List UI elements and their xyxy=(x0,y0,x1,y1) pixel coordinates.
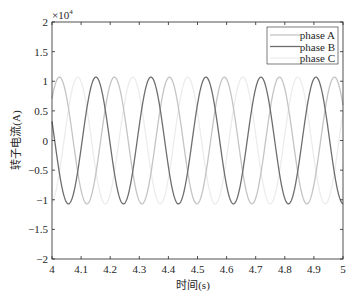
y-tick-label: 1 xyxy=(43,75,49,87)
x-tick-label: 4.7 xyxy=(249,263,263,275)
y-tick-label: −1 xyxy=(36,194,48,206)
x-axis-label: 时间(s) xyxy=(176,279,210,292)
x-tick-label: 4.6 xyxy=(220,263,234,275)
y-tick-label: 2 xyxy=(43,16,49,28)
y-scale-label: ×104 xyxy=(52,8,73,21)
x-tick-label: 4.4 xyxy=(162,263,176,275)
y-tick-label: −0.5 xyxy=(28,164,48,176)
y-tick-label: 0 xyxy=(43,135,49,147)
y-tick-label: −2 xyxy=(36,253,48,265)
plot-series xyxy=(52,77,343,204)
legend-label: phase A xyxy=(300,29,335,41)
x-tick-label: 5 xyxy=(340,263,346,275)
x-tick-label: 4.9 xyxy=(307,263,321,275)
legend-label: phase B xyxy=(300,41,335,53)
x-tick-label: 4.8 xyxy=(278,263,292,275)
x-tick-label: 4.2 xyxy=(103,263,117,275)
rotor-current-chart: 44.14.24.34.44.54.64.74.84.95 −2−1.5−1−0… xyxy=(0,0,358,301)
x-tick-label: 4 xyxy=(49,263,55,275)
x-tick-label: 4.5 xyxy=(191,263,205,275)
series-line-phase-a xyxy=(52,77,343,204)
y-tick-label: 1.5 xyxy=(34,46,48,58)
y-tick-label: 0.5 xyxy=(34,105,48,117)
legend: phase Aphase Bphase C xyxy=(267,27,338,64)
legend-label: phase C xyxy=(300,52,335,64)
y-tick-label: −1.5 xyxy=(28,223,48,235)
x-tick-label: 4.3 xyxy=(132,263,146,275)
x-tick-label: 4.1 xyxy=(74,263,88,275)
y-axis-label: 转子电流(A) xyxy=(9,110,23,170)
